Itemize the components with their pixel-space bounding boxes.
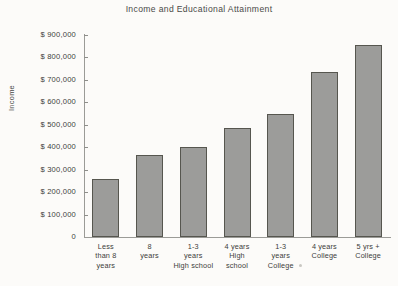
x-axis-tick-label: 8years [128,242,172,261]
y-axis-tick-label: $ 100,000 [12,210,76,219]
x-axis-tick-label-line: 4 years [303,242,347,251]
y-axis-tick [84,170,88,171]
x-axis-tick-label-line: years [84,261,128,270]
y-axis-line [84,34,85,238]
bar [224,128,251,237]
x-axis-tick-label-line: 4 years [215,242,259,251]
bar [311,72,338,237]
x-axis-tick-label: 4 yearsHighschool [215,242,259,270]
x-axis-tick-label-line: High [215,251,259,260]
x-axis-tick-label-line: years [171,251,215,260]
x-axis-tick-label-line: school [215,261,259,270]
bar [355,45,382,237]
chart-title: Income and Educational Attainment [0,4,398,14]
y-axis-tick [84,125,88,126]
x-axis-tick-label-line: years [128,251,172,260]
y-axis-tick-label: $ 900,000 [12,30,76,39]
x-axis-tick-label-line: High school [171,261,215,270]
x-axis-tick-label: 5 yrs +College [346,242,390,261]
x-axis-tick-label-line: 5 yrs + [346,242,390,251]
x-axis-tick-label-line: Less [84,242,128,251]
x-axis-line [84,237,391,238]
y-axis-tick [84,57,88,58]
y-axis-tick [84,102,88,103]
x-axis-tick-label-line: College [259,261,303,270]
y-axis-tick-label: $ 300,000 [12,165,76,174]
y-axis-tick-label: $ 700,000 [12,75,76,84]
y-axis-tick-label: $ 400,000 [12,142,76,151]
y-axis-tick [84,215,88,216]
y-axis-tick-label: $ 200,000 [12,187,76,196]
x-axis-tick-label-line: 1-3 [171,242,215,251]
bar-chart-figure: Income and Educational Attainment Income… [0,0,398,286]
x-axis-tick-label-line: 8 [128,242,172,251]
x-axis-tick-label-line: College [346,251,390,260]
y-axis-tick [84,35,88,36]
scan-speck [299,264,302,267]
x-axis-tick-label-line: years [259,251,303,260]
y-axis-tick [84,192,88,193]
x-axis-tick-label-line: College [303,251,347,260]
x-axis-tick-label: Lessthan 8years [84,242,128,270]
x-axis-tick-label: 4 yearsCollege [303,242,347,261]
y-axis-tick-label: 0 [12,232,76,241]
bar [267,114,294,237]
y-axis-tick-label: $ 600,000 [12,97,76,106]
x-axis-tick-label-line: than 8 [84,251,128,260]
bar [136,155,163,237]
y-axis-tick [84,80,88,81]
y-axis-tick-label: $ 500,000 [12,120,76,129]
bar [92,179,119,237]
y-axis-tick [84,147,88,148]
y-axis-tick-label: $ 800,000 [12,52,76,61]
x-axis-tick-label: 1-3yearsCollege [259,242,303,270]
x-axis-tick-label-line: 1-3 [259,242,303,251]
x-axis-tick-label: 1-3yearsHigh school [171,242,215,270]
bar [180,147,207,237]
